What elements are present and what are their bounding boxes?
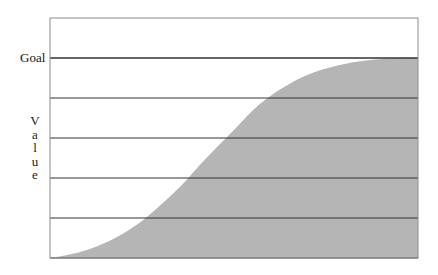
y-axis-label: Value xyxy=(29,114,41,182)
y-axis-label-char: e xyxy=(29,168,41,182)
y-axis-label-char: u xyxy=(29,155,41,169)
y-axis-label-char: a xyxy=(29,128,41,142)
chart xyxy=(0,0,438,275)
y-axis-label-char: l xyxy=(29,141,41,155)
goal-label: Goal xyxy=(20,50,45,66)
y-axis-label-char: V xyxy=(29,114,41,128)
area-fill xyxy=(50,58,418,258)
area-series xyxy=(50,58,418,258)
